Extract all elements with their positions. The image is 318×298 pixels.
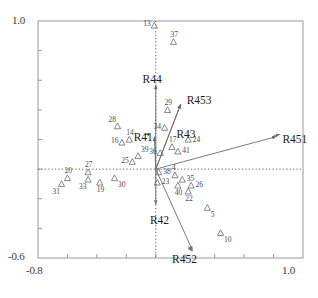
vector-arrows (145, 85, 280, 252)
data-point-marker (151, 22, 157, 28)
plot-canvas (0, 0, 318, 298)
data-point-marker (169, 144, 175, 150)
data-point-marker (97, 179, 103, 185)
data-point-marker (170, 39, 176, 45)
data-point-marker (129, 159, 135, 165)
data-point-marker (172, 172, 178, 178)
y-axis-min-tick-label: -0.6 (8, 250, 25, 262)
vector-arrow-r43 (156, 104, 181, 169)
x-axis-max-tick-label: 1.0 (282, 264, 295, 276)
data-point-marker (185, 136, 191, 142)
data-point-marker (162, 125, 168, 131)
data-point-marker (85, 169, 91, 175)
data-point-marker (175, 148, 181, 154)
data-point-marker (179, 176, 185, 182)
y-axis-max-tick-label: 1.0 (12, 14, 25, 26)
data-point-marker (111, 175, 117, 181)
data-point-marker (58, 181, 64, 187)
data-point-marker (114, 123, 120, 129)
data-point-marker (185, 188, 191, 194)
data-point-marker (154, 179, 160, 185)
data-point-marker (217, 230, 223, 236)
biplot-chart: 1337293428141639251724413627203133193038… (0, 0, 318, 298)
plot-frame (38, 21, 303, 258)
data-point-marker (188, 182, 194, 188)
data-point-marker (164, 107, 170, 113)
vector-arrow-r451 (156, 137, 277, 170)
data-point-marker (175, 182, 181, 188)
data-point-marker (85, 176, 91, 182)
data-point-marker (126, 136, 132, 142)
data-point-markers (58, 22, 223, 235)
data-point-marker (135, 153, 141, 159)
data-point-marker (204, 205, 210, 211)
x-axis-min-tick-label: -0.8 (26, 264, 43, 276)
data-point-marker (64, 175, 70, 181)
data-point-marker (119, 139, 125, 145)
reference-lines (38, 21, 303, 258)
vector-arrow-r452 (156, 169, 193, 250)
